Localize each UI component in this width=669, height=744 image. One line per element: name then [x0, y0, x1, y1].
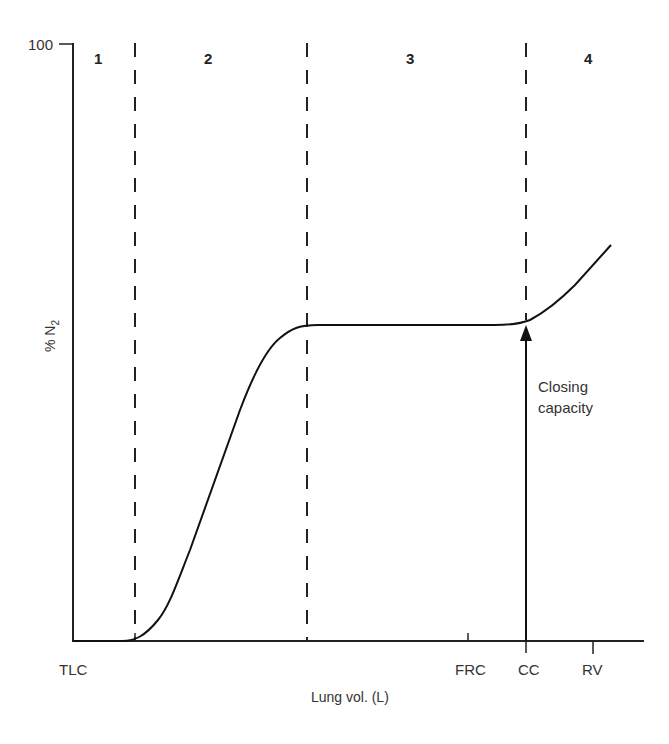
x-tick-label-frc: FRC: [455, 661, 486, 678]
x-tick-label-cc: CC: [518, 661, 540, 678]
x-axis-title: Lung vol. (L): [311, 689, 389, 705]
phase-label-1: 1: [94, 50, 102, 67]
closing-capacity-arrow-head-icon: [520, 325, 532, 341]
phase-label-2: 2: [204, 50, 212, 67]
annotation-closing: Closing: [538, 378, 588, 395]
x-tick-label-tlc: TLC: [59, 661, 88, 678]
phase-label-4: 4: [584, 50, 593, 67]
y-tick-label-100: 100: [28, 36, 53, 53]
x-tick-label-rv: RV: [582, 661, 603, 678]
svg-text:% N2: % N2: [42, 320, 61, 352]
annotation-capacity: capacity: [538, 399, 594, 416]
phase-label-3: 3: [406, 50, 414, 67]
y-axis-title-sub: 2: [50, 320, 61, 326]
n2-washout-chart: 100 1 2 3 4 % N2 TLC FRC CC RV Lung vol.…: [0, 0, 669, 744]
y-axis-title: % N2: [42, 320, 61, 352]
y-axis-title-main: % N: [42, 326, 58, 352]
n2-washout-curve: [73, 245, 611, 641]
